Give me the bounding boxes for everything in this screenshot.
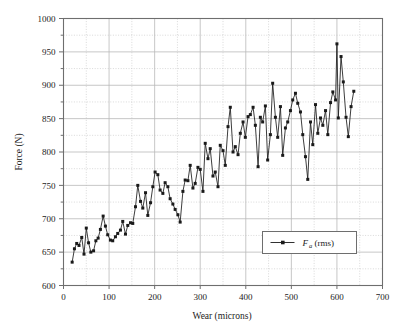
- data-point-marker: [204, 142, 207, 145]
- data-point-marker: [316, 132, 319, 135]
- data-point-marker: [281, 154, 284, 157]
- data-point-marker: [164, 181, 167, 184]
- data-point-marker: [331, 90, 334, 93]
- data-point-marker: [340, 55, 343, 58]
- data-point-marker: [136, 184, 139, 187]
- data-point-marker: [219, 144, 222, 147]
- data-point-marker: [321, 124, 324, 127]
- y-tick-label: 850: [42, 114, 56, 124]
- data-point-marker: [259, 116, 262, 119]
- data-point-marker: [216, 185, 219, 188]
- data-point-marker: [279, 105, 282, 108]
- data-point-marker: [252, 106, 255, 109]
- data-point-marker: [71, 261, 74, 264]
- data-point-marker: [232, 151, 235, 154]
- data-point-marker: [304, 155, 307, 158]
- data-point-marker: [224, 164, 227, 167]
- data-point-marker: [149, 201, 152, 204]
- x-tick-label: 0: [61, 292, 66, 302]
- chart-canvas: 0100200300400500600700 60065070075080085…: [0, 0, 408, 329]
- x-tick-label: 700: [376, 292, 390, 302]
- data-point-marker: [144, 191, 147, 194]
- data-point-marker: [141, 207, 144, 210]
- data-point-marker: [335, 42, 338, 45]
- data-point-marker: [291, 98, 294, 101]
- data-point-marker: [334, 98, 337, 101]
- data-point-marker: [342, 80, 345, 83]
- data-point-marker: [80, 236, 83, 239]
- data-point-marker: [151, 185, 154, 188]
- data-point-marker: [276, 136, 279, 139]
- data-point-marker: [314, 103, 317, 106]
- legend-label-subscript: a: [309, 242, 312, 249]
- legend-label-base: F: [302, 238, 309, 248]
- y-tick-label: 900: [42, 80, 56, 90]
- data-point-marker: [301, 133, 304, 136]
- data-point-marker: [286, 120, 289, 123]
- data-point-marker: [89, 251, 92, 254]
- x-tick-label: 300: [193, 292, 207, 302]
- y-tick-label: 800: [42, 147, 56, 157]
- data-point-marker: [116, 232, 119, 235]
- x-tick-label: 200: [148, 292, 162, 302]
- data-point-marker: [199, 168, 202, 171]
- data-point-marker: [186, 179, 189, 182]
- data-point-marker: [85, 227, 88, 230]
- data-point-marker: [284, 126, 287, 129]
- data-point-marker: [229, 106, 232, 109]
- data-point-marker: [350, 105, 353, 108]
- data-point-marker: [254, 124, 257, 127]
- data-point-marker: [237, 153, 240, 156]
- data-point-marker: [124, 233, 127, 236]
- data-point-marker: [329, 101, 332, 104]
- data-point-marker: [264, 104, 267, 107]
- data-point-marker: [244, 136, 247, 139]
- data-point-marker: [83, 253, 86, 256]
- data-point-marker: [131, 222, 134, 225]
- legend-sample-marker: [281, 241, 285, 245]
- data-point-marker: [306, 178, 309, 181]
- data-point-marker: [201, 190, 204, 193]
- data-point-marker: [121, 220, 124, 223]
- data-point-marker: [289, 109, 292, 112]
- data-point-marker: [102, 215, 105, 218]
- chart-figure: 0100200300400500600700 60065070075080085…: [0, 0, 408, 329]
- data-point-marker: [104, 225, 107, 228]
- y-axis-title: Force (N): [14, 133, 25, 170]
- data-point-marker: [319, 116, 322, 119]
- data-point-marker: [159, 189, 162, 192]
- data-point-marker: [97, 237, 100, 240]
- data-point-marker: [206, 157, 209, 160]
- data-point-marker: [271, 82, 274, 85]
- data-point-marker: [169, 197, 172, 200]
- data-point-marker: [134, 205, 137, 208]
- data-point-marker: [326, 133, 329, 136]
- data-point-marker: [345, 116, 348, 119]
- data-point-marker: [294, 92, 297, 95]
- data-point-marker: [189, 164, 192, 167]
- x-axis-title: Wear (microns): [192, 311, 251, 322]
- data-point-marker: [139, 200, 142, 203]
- data-point-marker: [77, 244, 80, 247]
- data-point-marker: [119, 229, 122, 232]
- data-point-marker: [179, 221, 182, 224]
- data-point-marker: [324, 109, 327, 112]
- data-point-marker: [171, 203, 174, 206]
- data-point-marker: [209, 147, 212, 150]
- data-point-marker: [227, 125, 230, 128]
- data-point-marker: [166, 185, 169, 188]
- data-point-marker: [249, 113, 252, 116]
- y-tick-label: 950: [42, 47, 56, 57]
- x-tick-label: 600: [330, 292, 344, 302]
- data-point-marker: [181, 190, 184, 193]
- x-tick-label: 500: [285, 292, 299, 302]
- data-point-marker: [311, 143, 314, 146]
- data-point-marker: [146, 214, 149, 217]
- y-tick-label: 1000: [38, 14, 57, 24]
- data-point-marker: [87, 241, 90, 244]
- data-point-marker: [154, 171, 157, 174]
- data-point-marker: [222, 149, 225, 152]
- data-point-marker: [194, 182, 197, 185]
- chart-legend[interactable]: Fa(rms): [263, 232, 357, 254]
- data-point-marker: [274, 116, 277, 119]
